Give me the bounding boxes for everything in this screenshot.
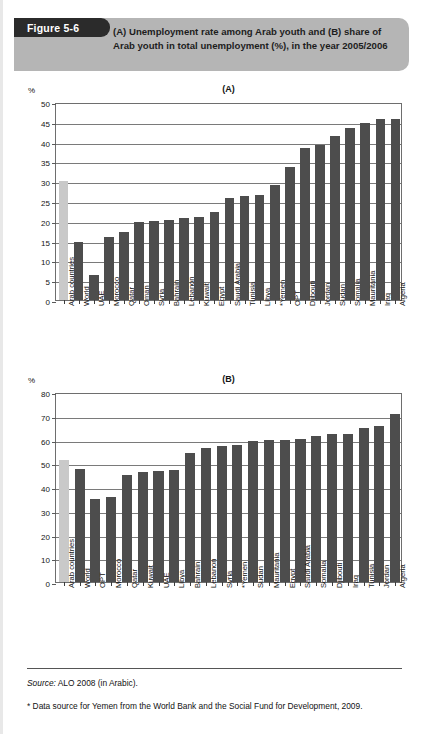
x-axis-tick: [237, 582, 238, 586]
x-axis-tick: [245, 300, 246, 304]
x-axis-tick: [365, 300, 366, 304]
y-axis-tick: [52, 104, 56, 105]
x-axis-tick: [143, 582, 144, 586]
x-axis-tick: [154, 300, 155, 304]
y-axis-tick-label: 20: [30, 218, 50, 227]
x-axis-tick: [190, 582, 191, 586]
x-axis-tick: [395, 582, 396, 586]
y-axis-tick-label: 45: [30, 119, 50, 128]
y-axis-tick: [52, 302, 56, 303]
x-axis-tick: [95, 582, 96, 586]
x-axis-tick: [184, 300, 185, 304]
y-axis-tick-label: 40: [30, 485, 50, 494]
bar: [248, 441, 258, 582]
footer-divider: [27, 668, 402, 669]
bar: [330, 136, 340, 300]
x-axis-tick: [316, 582, 317, 586]
source-label: Source:: [27, 678, 56, 688]
panel-label-a: (A): [55, 84, 402, 94]
y-axis-tick-label: 50: [30, 461, 50, 470]
x-axis-tick: [300, 582, 301, 586]
x-axis-tick: [364, 582, 365, 586]
bar: [300, 148, 310, 300]
x-axis-tick: [174, 582, 175, 586]
y-axis-tick-label: 35: [30, 159, 50, 168]
x-axis-tick: [332, 582, 333, 586]
source-value: ALO 2008 (in Arabic).: [56, 678, 138, 688]
source-line: Source: ALO 2008 (in Arabic).: [27, 678, 138, 688]
x-axis-tick: [159, 582, 160, 586]
y-axis-tick: [52, 262, 56, 263]
bar: [169, 470, 179, 582]
panel-label-b: (B): [55, 374, 402, 384]
x-axis-tick-label: Algeria: [398, 564, 407, 588]
gridline: [56, 124, 401, 125]
x-axis-tick: [260, 300, 261, 304]
y-axis-tick-label: 30: [30, 508, 50, 517]
y-axis-tick-label: 60: [30, 437, 50, 446]
x-axis-tick: [379, 582, 380, 586]
bar: [122, 475, 132, 582]
x-axis-tick: [111, 582, 112, 586]
x-axis-tick: [80, 582, 81, 586]
x-axis-tick: [64, 582, 65, 586]
y-axis-tick: [52, 203, 56, 204]
bar: [374, 426, 384, 583]
y-axis-tick: [52, 163, 56, 164]
y-axis-tick: [52, 489, 56, 490]
x-axis-tick: [206, 582, 207, 586]
y-axis-tick: [52, 537, 56, 538]
x-axis-tick: [380, 300, 381, 304]
x-axis-tick: [222, 582, 223, 586]
x-axis-tick: [335, 300, 336, 304]
y-axis-tick: [52, 465, 56, 466]
x-axis-tick: [169, 300, 170, 304]
y-axis-tick-label: 20: [30, 532, 50, 541]
bar: [391, 119, 401, 300]
x-axis-tick-label: Algeria: [398, 282, 407, 306]
figure-title: (A) Unemployment rate among Arab youth a…: [113, 25, 399, 52]
y-axis-tick: [52, 243, 56, 244]
y-axis-tick-label: 50: [30, 100, 50, 109]
y-axis-tick-label: 10: [30, 556, 50, 565]
y-axis-tick: [52, 144, 56, 145]
bar: [285, 167, 295, 300]
bar: [90, 499, 100, 582]
bar: [315, 145, 325, 300]
x-axis-tick: [395, 300, 396, 304]
y-axis-tick-label: 80: [30, 390, 50, 399]
y-axis-tick-label: 30: [30, 179, 50, 188]
y-axis-tick-label: 0: [30, 580, 50, 589]
x-axis-tick: [269, 582, 270, 586]
x-axis-tick: [109, 300, 110, 304]
plot-area-a: 05101520253035404550Arab countriesWorldU…: [55, 103, 402, 301]
y-axis-tick: [52, 223, 56, 224]
y-axis-unit-b: %: [28, 376, 35, 385]
bar: [153, 471, 163, 582]
bar: [345, 128, 355, 300]
y-axis-tick-label: 70: [30, 413, 50, 422]
footnote: * Data source for Yemen from the World B…: [27, 701, 363, 711]
bar: [75, 469, 85, 582]
x-axis-tick: [199, 300, 200, 304]
x-axis-tick: [305, 300, 306, 304]
bar: [390, 414, 400, 582]
bar: [359, 428, 369, 582]
bar: [280, 440, 290, 583]
y-axis-tick: [52, 560, 56, 561]
page-left-edge: [0, 0, 3, 734]
y-axis-tick: [52, 282, 56, 283]
x-axis-tick: [94, 300, 95, 304]
x-axis-tick: [285, 582, 286, 586]
y-axis-tick-label: 10: [30, 258, 50, 267]
bar: [327, 434, 337, 582]
y-axis-tick: [52, 124, 56, 125]
y-axis-tick-label: 15: [30, 238, 50, 247]
y-axis-tick: [52, 394, 56, 395]
x-axis-tick: [127, 582, 128, 586]
gridline: [56, 418, 401, 419]
x-axis-tick: [214, 300, 215, 304]
y-axis-tick: [52, 442, 56, 443]
x-axis-tick: [290, 300, 291, 304]
x-axis-tick: [253, 582, 254, 586]
